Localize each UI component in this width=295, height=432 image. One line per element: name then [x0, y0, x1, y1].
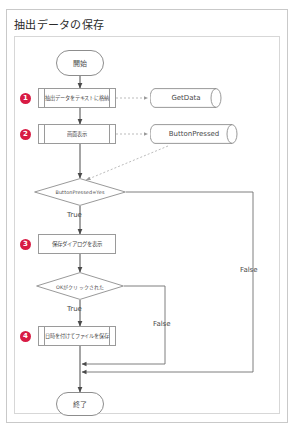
process-step-4-label: 日時を付けてファイルを保存 — [38, 332, 115, 340]
end-terminator: 終了 — [56, 392, 104, 416]
edge-label-false-2: False — [153, 320, 171, 328]
process-step-1: 抽出データをテキストに格納 — [38, 88, 116, 108]
start-terminator-label: 開始 — [73, 58, 87, 68]
decision-buttonpressed-label: ButtonPressed=Yes — [55, 189, 104, 195]
process-step-2: 画面表示 — [38, 124, 116, 144]
process-step-1-label: 抽出データをテキストに格納 — [38, 94, 115, 102]
edge-label-true-2: True — [67, 305, 82, 313]
end-terminator-label: 終了 — [73, 399, 87, 409]
process-step-4: 日時を付けてファイルを保存 — [38, 326, 116, 346]
decision-buttonpressed: ButtonPressed=Yes — [34, 178, 126, 206]
edge-label-false-1: False — [240, 266, 258, 274]
datastore-buttonpressed: ButtonPressed — [150, 124, 238, 144]
process-step-3-label: 保存ダイアログを表示 — [52, 240, 102, 248]
datastore-getdata: GetData — [150, 88, 222, 108]
datastore-buttonpressed-label: ButtonPressed — [169, 130, 220, 138]
start-terminator: 開始 — [56, 50, 104, 76]
step-badge-4: 4 — [20, 331, 31, 342]
datastore-getdata-label: GetData — [171, 94, 200, 102]
process-step-2-label: 画面表示 — [60, 130, 93, 138]
process-step-3: 保存ダイアログを表示 — [38, 234, 116, 254]
decision-ok-clicked: OKがクリックされた — [36, 272, 124, 300]
screenshot-root: 抽出データの保存 — [0, 0, 295, 432]
step-badge-1: 1 — [20, 93, 31, 104]
edge-label-true-1: True — [67, 211, 82, 219]
step-badge-2: 2 — [20, 129, 31, 140]
step-badge-3: 3 — [20, 239, 31, 250]
page-title: 抽出データの保存 — [14, 16, 104, 32]
decision-ok-clicked-label: OKがクリックされた — [56, 283, 104, 290]
